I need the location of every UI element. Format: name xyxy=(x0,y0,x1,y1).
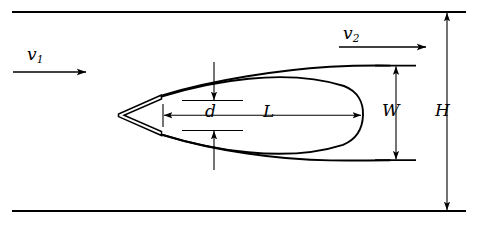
wedge-thickness-label: d xyxy=(205,103,216,120)
cavitating-wedge-diagram: v1 v2 d L W H xyxy=(0,0,478,230)
upper-streamline xyxy=(163,66,390,96)
cavity-width-label: W xyxy=(382,102,399,119)
diagram-canvas xyxy=(0,0,478,230)
inlet-velocity-label: v1 xyxy=(27,46,43,63)
channel-height-label: H xyxy=(435,102,450,119)
lower-streamline xyxy=(163,135,390,160)
outlet-velocity-label: v2 xyxy=(343,25,359,42)
length-dimension-L xyxy=(163,104,361,127)
cavity-length-label: L xyxy=(263,103,274,120)
wedge-body xyxy=(119,95,162,136)
